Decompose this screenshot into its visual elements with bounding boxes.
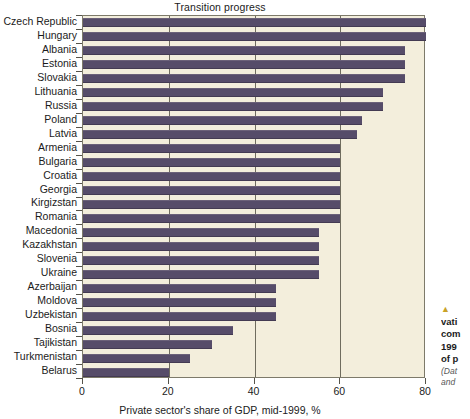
caption-source-line: (Dat: [441, 366, 470, 378]
category-label: Kirgizstan: [31, 197, 77, 208]
x-tick-label: 40: [248, 385, 260, 397]
bar: [83, 102, 383, 111]
bar: [83, 186, 340, 195]
category-label: Croatia: [43, 170, 77, 181]
bar: [83, 228, 319, 237]
x-tick-label: 80: [419, 385, 431, 397]
category-label: Lithuania: [34, 86, 77, 97]
bar: [83, 298, 276, 307]
category-label: Poland: [44, 114, 77, 125]
caption-source-line: and: [441, 377, 470, 389]
bar: [83, 74, 405, 83]
bar: [83, 158, 340, 167]
category-label: Azerbaijan: [27, 281, 77, 292]
category-label: Kazakhstan: [22, 239, 77, 250]
bar: [83, 312, 276, 321]
category-label: Hungary: [37, 30, 77, 41]
bar: [83, 172, 340, 181]
x-tick: [82, 378, 83, 384]
caption-marker-triangle-icon: ▲: [441, 303, 470, 316]
category-label: Albania: [42, 44, 77, 55]
bar: [83, 354, 190, 363]
category-label: Macedonia: [26, 225, 77, 236]
category-label: Latvia: [49, 128, 77, 139]
category-label: Bulgaria: [38, 156, 77, 167]
bar: [83, 46, 405, 55]
category-label: Romania: [35, 211, 77, 222]
x-tick: [254, 378, 255, 384]
caption-line: 199: [441, 341, 470, 354]
category-label: Slovenia: [37, 253, 77, 264]
x-tick: [168, 378, 169, 384]
bar: [83, 326, 233, 335]
figure-caption-clipped: ▲vaticom199of p(Datand: [441, 303, 470, 419]
bar-series: [83, 16, 424, 377]
x-tick-label: 20: [162, 385, 174, 397]
bar: [83, 60, 405, 69]
bar: [83, 88, 383, 97]
category-label: Russia: [45, 100, 77, 111]
category-label: Slovakia: [37, 72, 77, 83]
x-axis-ticks: [0, 378, 470, 386]
x-tick: [425, 378, 426, 384]
caption-line: of p: [441, 353, 470, 366]
category-label: Armenia: [38, 142, 77, 153]
bar: [83, 368, 169, 377]
category-label: Moldova: [37, 295, 77, 306]
category-label: Czech Republic: [3, 16, 77, 27]
x-tick-label: 0: [79, 385, 85, 397]
chart-figure: Transition progress Czech RepublicHungar…: [0, 0, 470, 419]
category-label: Tajikistan: [34, 337, 77, 348]
category-label: Turkmenistan: [14, 351, 77, 362]
bar: [83, 200, 340, 209]
bar: [83, 18, 426, 27]
plot-area: [82, 15, 425, 378]
caption-line: com: [441, 328, 470, 341]
chart-title: Transition progress: [0, 1, 440, 13]
category-label: Bosnia: [45, 323, 77, 334]
category-label: Uzbekistan: [25, 309, 77, 320]
x-axis-title: Private sector's share of GDP, mid-1999,…: [0, 404, 440, 416]
caption-line: vati: [441, 316, 470, 329]
bar: [83, 242, 319, 251]
x-tick-label: 60: [333, 385, 345, 397]
x-tick: [339, 378, 340, 384]
category-label: Ukraine: [41, 267, 77, 278]
bar: [83, 130, 357, 139]
bar: [83, 32, 426, 41]
bar: [83, 214, 340, 223]
category-label: Georgia: [40, 184, 77, 195]
category-label: Estonia: [42, 58, 77, 69]
bar: [83, 116, 362, 125]
y-axis-category-labels: Czech RepublicHungaryAlbaniaEstoniaSlova…: [0, 15, 77, 378]
bar: [83, 256, 319, 265]
category-label: Belarus: [41, 365, 77, 376]
bar: [83, 270, 319, 279]
bar: [83, 144, 340, 153]
bar: [83, 340, 212, 349]
bar: [83, 284, 276, 293]
